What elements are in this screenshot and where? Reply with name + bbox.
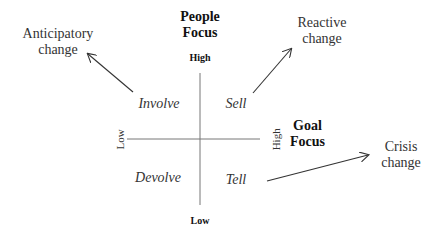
- people-low-label: Low: [186, 215, 214, 227]
- people-focus-line1: People: [178, 9, 222, 25]
- goal-high-label: High: [270, 125, 283, 153]
- crisis-change-label: Crisis change: [376, 139, 426, 171]
- quadrant-devolve: Devolve: [132, 170, 184, 186]
- reactive-change-label: Reactive change: [294, 15, 350, 47]
- goal-focus-line1: Goal: [290, 118, 330, 134]
- people-high-label: High: [186, 52, 214, 64]
- reactive-line2: change: [294, 31, 350, 47]
- goal-low-label: Low: [114, 125, 127, 153]
- anticipatory-change-label: Anticipatory change: [20, 26, 96, 58]
- anticipatory-line1: Anticipatory: [20, 26, 96, 42]
- people-focus-title: People Focus: [178, 9, 222, 41]
- goal-focus-title: Goal Focus: [290, 118, 330, 150]
- arrow-anticipatory: [88, 54, 133, 92]
- arrow-crisis: [267, 155, 368, 181]
- people-focus-line2: Focus: [178, 25, 222, 41]
- reactive-line1: Reactive: [294, 15, 350, 31]
- quadrant-sell: Sell: [218, 96, 254, 112]
- anticipatory-line2: change: [20, 42, 96, 58]
- quadrant-involve: Involve: [134, 96, 184, 112]
- arrow-reactive: [253, 49, 291, 93]
- crisis-line1: Crisis: [376, 139, 426, 155]
- quadrant-tell: Tell: [220, 172, 252, 188]
- goal-focus-line2: Focus: [290, 134, 330, 150]
- crisis-line2: change: [376, 155, 426, 171]
